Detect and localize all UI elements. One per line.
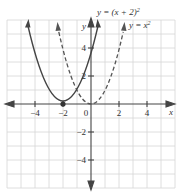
y-axis-up-arrow-icon [88, 18, 94, 27]
curve1-label: y = (x + 2)2 [96, 7, 140, 17]
y-axis-label: y [81, 21, 86, 31]
parabola-graph: −4 −2 0 2 4 x 4 2 −2 −4 y y = (x + 2)2 y… [0, 0, 177, 192]
x-tick-label: −2 [58, 108, 68, 118]
x-tick-label: 2 [117, 108, 122, 118]
vertex-point [60, 101, 65, 106]
y-tick-label: 2 [82, 71, 87, 81]
x-tick-label: 4 [145, 108, 150, 118]
x-axis-label: x [168, 107, 173, 117]
curve2-right-arrow-icon [121, 22, 127, 31]
x-tick-label: −4 [30, 108, 40, 118]
curve2-left-arrow-icon [56, 22, 62, 31]
y-tick-label: −4 [76, 155, 86, 165]
y-axis-down-arrow-icon [88, 181, 94, 190]
y-tick-label: −2 [76, 127, 86, 137]
y-tick-label: 4 [82, 43, 87, 53]
origin-label: 0 [84, 108, 89, 118]
x-axis-left-arrow-icon [5, 101, 14, 107]
curve2-label: y = x2 [128, 20, 151, 30]
